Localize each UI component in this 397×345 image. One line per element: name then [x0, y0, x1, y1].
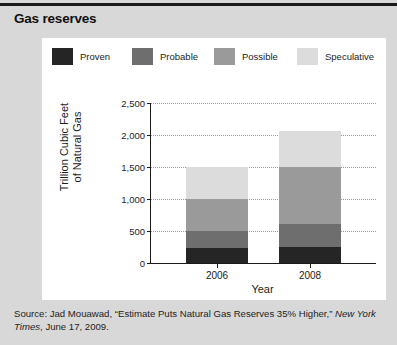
- bar-segment-2006-possible: [186, 199, 248, 231]
- y-tick-label: 500: [129, 226, 145, 237]
- figure-container: Gas reserves ProvenProbablePossibleSpecu…: [0, 0, 397, 345]
- y-tick-mark: [147, 167, 151, 168]
- y-axis-label: Trillion Cubic Feet of Natural Gas: [58, 72, 84, 222]
- y-tick-label: 0: [140, 258, 145, 269]
- source-caption: Source: Jad Mouawad, “Estimate Puts Natu…: [14, 307, 384, 333]
- page-title: Gas reserves: [14, 11, 96, 26]
- legend-label-speculative: Speculative: [325, 51, 374, 62]
- gridline: [151, 135, 376, 136]
- legend-item-proven: Proven: [52, 46, 110, 66]
- plot-area: 05001,0001,5002,0002,50020062008: [150, 103, 376, 264]
- bar-segment-2006-probable: [186, 231, 248, 248]
- gridline: [151, 231, 376, 232]
- top-rule: [0, 3, 397, 6]
- legend-item-possible: Possible: [214, 46, 278, 66]
- gridline: [151, 167, 376, 168]
- chart-legend: ProvenProbablePossibleSpeculative: [42, 38, 386, 80]
- legend-label-possible: Possible: [242, 51, 278, 62]
- x-tick-label-2008: 2008: [299, 270, 321, 281]
- source-prefix: Source: Jad Mouawad, “Estimate Puts Natu…: [14, 308, 335, 319]
- legend-label-proven: Proven: [80, 51, 110, 62]
- y-tick-mark: [147, 103, 151, 104]
- y-tick-label: 2,000: [121, 130, 145, 141]
- legend-label-probable: Probable: [160, 51, 198, 62]
- x-tick-mark: [217, 263, 218, 268]
- bar-segment-2008-probable: [279, 224, 341, 247]
- y-tick-mark: [147, 263, 151, 264]
- bar-segment-2008-speculative: [279, 131, 341, 167]
- legend-swatch-probable: [132, 48, 153, 65]
- y-tick-label: 1,000: [121, 194, 145, 205]
- y-tick-label: 2,500: [121, 98, 145, 109]
- bar-segment-2006-proven: [186, 248, 248, 263]
- bar-2008: [279, 131, 341, 263]
- source-suffix: , June 17, 2009.: [40, 321, 109, 332]
- bar-segment-2008-proven: [279, 247, 341, 263]
- legend-item-speculative: Speculative: [297, 46, 374, 66]
- y-tick-mark: [147, 199, 151, 200]
- legend-swatch-speculative: [297, 48, 318, 65]
- y-axis-label-line2: of Natural Gas: [71, 112, 83, 183]
- bar-segment-2006-speculative: [186, 167, 248, 199]
- bar-2006: [186, 167, 248, 263]
- y-tick-mark: [147, 231, 151, 232]
- chart-panel: ProvenProbablePossibleSpeculative 05001,…: [42, 38, 386, 300]
- legend-item-probable: Probable: [132, 46, 198, 66]
- y-axis-label-line1: Trillion Cubic Feet: [58, 103, 70, 191]
- x-tick-label-2006: 2006: [206, 270, 228, 281]
- y-tick-mark: [147, 135, 151, 136]
- x-axis-label: Year: [150, 283, 375, 295]
- legend-swatch-proven: [52, 48, 73, 65]
- y-tick-label: 1,500: [121, 162, 145, 173]
- gridline: [151, 199, 376, 200]
- legend-swatch-possible: [214, 48, 235, 65]
- x-tick-mark: [310, 263, 311, 268]
- bar-segment-2008-possible: [279, 167, 341, 224]
- gridline: [151, 103, 376, 104]
